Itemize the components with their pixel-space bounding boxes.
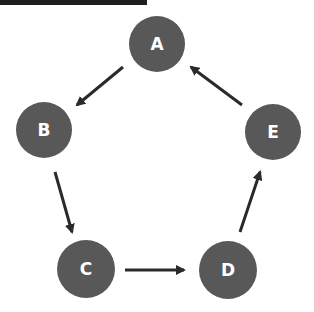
node-d: D <box>199 241 257 299</box>
node-a: A <box>129 16 185 72</box>
cycle-diagram: ABCDE <box>0 0 314 312</box>
edge-d-to-e <box>240 172 260 232</box>
node-label: B <box>38 120 51 140</box>
node-label: E <box>267 122 279 142</box>
node-e: E <box>245 104 301 160</box>
node-label: C <box>80 259 92 279</box>
node-label: D <box>221 260 235 280</box>
edges <box>55 67 260 270</box>
node-label: A <box>150 34 164 54</box>
edge-b-to-c <box>55 172 72 232</box>
edge-a-to-b <box>77 67 123 105</box>
edge-e-to-a <box>191 67 242 105</box>
nodes: ABCDE <box>16 16 301 299</box>
node-c: C <box>57 240 115 298</box>
node-b: B <box>16 102 72 158</box>
